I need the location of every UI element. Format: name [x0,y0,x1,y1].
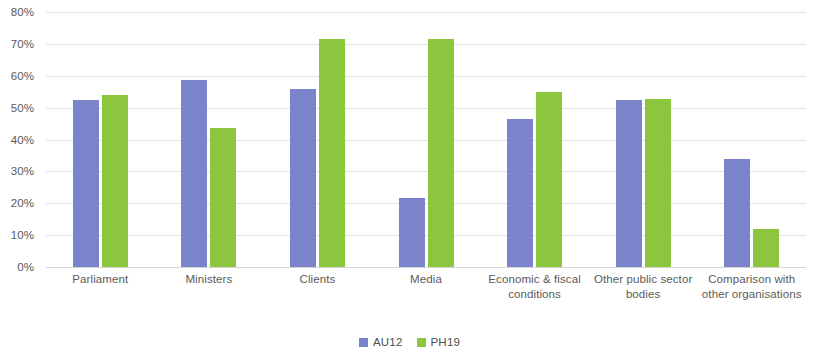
bar-au12 [724,159,750,267]
bars-layer [46,12,806,267]
bar-group [724,12,779,267]
legend-swatch-icon [359,338,368,347]
bar-au12 [73,100,99,267]
x-axis-tick-label: Ministers [159,272,260,287]
bar-ph19 [536,92,562,267]
bar-au12 [616,100,642,267]
y-axis-tick-label: 20% [11,197,34,209]
bar-group [73,12,128,267]
bar-ph19 [645,99,671,267]
chart-legend: AU12PH19 [0,336,819,348]
y-axis-tick-label: 50% [11,102,34,114]
legend-item-au12[interactable]: AU12 [359,336,403,348]
bar-au12 [290,89,316,268]
y-axis-tick-label: 30% [11,165,34,177]
legend-item-ph19[interactable]: PH19 [417,336,461,348]
bar-ph19 [319,39,345,267]
x-axis-tick-label: Clients [267,272,368,287]
bar-group [290,12,345,267]
x-axis-tick-label: Economic & fiscal conditions [484,272,585,302]
x-axis-tick-label: Parliament [50,272,151,287]
x-axis: ParliamentMinistersClientsMediaEconomic … [46,272,806,332]
y-axis: 80%70%60%50%40%30%20%10%0% [0,12,40,267]
x-axis-tick-label: Media [376,272,477,287]
y-axis-tick-label: 80% [11,6,34,18]
bar-group [399,12,454,267]
plot-area [46,12,806,267]
bar-group [507,12,562,267]
y-axis-tick-label: 60% [11,70,34,82]
bar-chart: 80%70%60%50%40%30%20%10%0% ParliamentMin… [0,0,819,355]
x-axis-tick-label: Comparison with other organisations [701,272,802,302]
bar-ph19 [102,95,128,267]
legend-label: PH19 [431,336,461,348]
bar-ph19 [210,128,236,267]
y-axis-tick-label: 0% [17,261,34,273]
y-axis-tick-label: 70% [11,38,34,50]
bar-ph19 [428,39,454,267]
bar-group [616,12,671,267]
y-axis-tick-label: 40% [11,134,34,146]
legend-label: AU12 [373,336,403,348]
bar-group [181,12,236,267]
bar-au12 [399,198,425,267]
bar-ph19 [753,229,779,267]
bar-au12 [181,80,207,267]
y-axis-tick-label: 10% [11,229,34,241]
gridline [46,267,806,268]
bar-au12 [507,119,533,267]
legend-swatch-icon [417,338,426,347]
x-axis-tick-label: Other public sector bodies [593,272,694,302]
